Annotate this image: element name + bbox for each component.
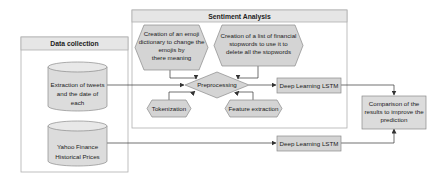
emoji-dictionary-line-3: emojis by — [158, 46, 185, 53]
stopwords-line-2: stopwords to use it to — [229, 40, 288, 47]
lstm-prices-label: Deep Learning LSTM — [280, 140, 339, 147]
tokenization-label: Tokenization — [152, 105, 187, 112]
lstm-sentiment-node: Deep Learning LSTM — [277, 78, 341, 93]
tokenization-node: Tokenization — [147, 100, 191, 117]
lstm-sentiment-label: Deep Learning LSTM — [280, 82, 339, 89]
tweets-db-line-3: each — [71, 99, 85, 106]
emoji-dictionary-node: Creation of an emoji dictionary to chang… — [135, 25, 208, 70]
tweets-db-line-2: and the date of — [57, 90, 99, 97]
feature-extraction-node: Feature extraction — [225, 100, 282, 117]
stopwords-line-3: delete all the stopwords — [226, 48, 291, 55]
edge-lstm2-to-comparison — [341, 129, 394, 143]
yahoo-database-node: Yahoo Finance Historical Prices — [48, 121, 107, 166]
tweets-database-node: Extraction of tweets and the date of eac… — [48, 62, 107, 111]
emoji-dictionary-line-4: there meaning — [152, 54, 192, 61]
emoji-dictionary-line-2: dictionary to change the — [139, 38, 205, 45]
stopwords-node: Creation of a list of financial stopword… — [214, 25, 303, 66]
preprocessing-label: Preprocessing — [197, 81, 237, 88]
comparison-line-3: prediction — [381, 116, 408, 123]
comparison-line-2: results to improve the — [364, 108, 424, 115]
comparison-node: Comparison of the results to improve the… — [362, 96, 426, 129]
data-collection-title: Data collection — [50, 40, 98, 47]
pipeline-diagram: Sentiment Analysis Data collection Creat… — [0, 0, 447, 186]
stopwords-line-1: Creation of a list of financial — [220, 32, 296, 39]
comparison-line-1: Comparison of the — [369, 100, 420, 107]
tweets-db-line-1: Extraction of tweets — [51, 81, 105, 88]
yahoo-db-line-2: Historical Prices — [55, 153, 99, 160]
sentiment-analysis-title: Sentiment Analysis — [208, 13, 271, 21]
yahoo-db-line-1: Yahoo Finance — [57, 143, 99, 150]
lstm-prices-node: Deep Learning LSTM — [277, 136, 341, 151]
emoji-dictionary-line-1: Creation of an emoji — [144, 30, 199, 37]
feature-extraction-label: Feature extraction — [229, 105, 279, 112]
edge-lstm-to-comparison — [341, 85, 394, 95]
